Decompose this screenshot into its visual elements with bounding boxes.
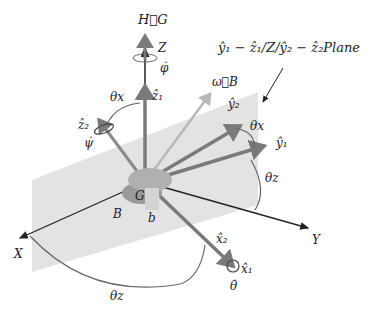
- label-theta-z-bottom: θz: [110, 289, 124, 303]
- label-b-lower: b: [148, 211, 156, 225]
- label-z1: ẑ₁: [151, 89, 163, 103]
- label-h-g: H⃗G: [137, 12, 168, 27]
- plane-pointer-arrow: [263, 68, 283, 102]
- label-z2: ẑ₂: [77, 118, 89, 132]
- label-g: G: [135, 189, 145, 203]
- label-y2: ŷ₂: [227, 97, 240, 111]
- label-x1: x̂₁: [241, 262, 253, 276]
- label-y1: ŷ₁: [275, 136, 288, 150]
- label-theta-dot: θ̇: [230, 279, 238, 293]
- label-theta-x-right: θx: [250, 119, 264, 133]
- shaft-b: [145, 188, 159, 210]
- label-b-upper: B: [112, 207, 122, 221]
- label-x: X: [13, 247, 23, 261]
- label-y: Y: [312, 233, 321, 247]
- label-omega-b: ω⃗B: [212, 75, 238, 89]
- gyroscope-frame-diagram: ŷ₁ − ẑ₁/Z/ŷ₂ − ẑ₂Plane H⃗G Z φ̇ ẑ₁ θx ẑ₂…: [0, 0, 366, 318]
- label-phi-dot: φ̇: [160, 61, 169, 75]
- label-theta-z-right: θz: [265, 171, 279, 185]
- label-x2: x̂₂: [216, 232, 228, 246]
- theta-x-arc-left: [105, 103, 140, 130]
- label-z: Z: [157, 41, 167, 55]
- label-theta-x-left: θx: [110, 90, 124, 104]
- label-psi-dot: ψ̇: [84, 136, 94, 150]
- plane-label: ŷ₁ − ẑ₁/Z/ŷ₂ − ẑ₂Plane: [217, 40, 360, 55]
